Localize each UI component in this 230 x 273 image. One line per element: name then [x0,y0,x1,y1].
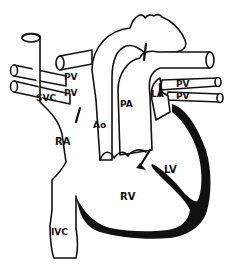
label-pv-right-lower: PV [176,91,190,101]
label-pa: PA [120,99,133,109]
label-svc: SVC [36,93,56,103]
label-ra: RA [55,136,71,147]
label-ivc: IVC [51,227,68,237]
label-pv-left-upper: PV [64,72,78,82]
right-pulmonary-vein-upper [160,78,221,91]
label-rv: RV [120,191,136,202]
right-pulmonary-vein-lower [166,92,223,103]
pulmonary-artery-branch-end [206,52,214,68]
label-ao: Ao [93,120,106,130]
label-lv: LV [164,164,177,175]
label-la: LA [151,89,164,99]
heart-diagram: PV SVC PV Ao PA LA PV PV RA LV RV IVC [0,0,230,273]
label-pv-left-lower: PV [64,88,78,98]
left-pulmonary-vein-upper-back [56,50,92,70]
valve-mark-left [76,108,80,122]
svc-opening [22,34,40,42]
label-pv-right-upper: PV [176,79,190,89]
